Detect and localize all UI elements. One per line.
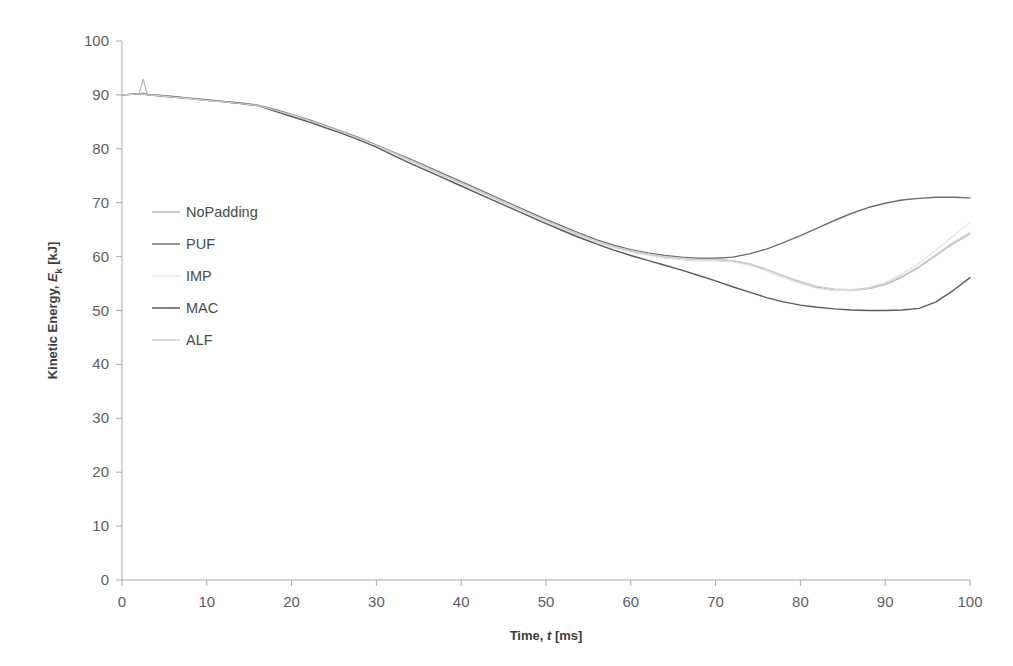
x-axis-title: Time, t [ms] — [510, 628, 583, 643]
series-line-alf — [122, 94, 970, 290]
x-tick-label: 40 — [453, 593, 470, 610]
legend-label-alf: ALF — [186, 332, 213, 348]
x-tick-label: 20 — [283, 593, 300, 610]
series-group — [122, 79, 970, 310]
x-tick-label: 100 — [957, 593, 982, 610]
y-tick-label: 0 — [101, 571, 109, 588]
y-tick-label: 80 — [92, 140, 109, 157]
legend-label-mac: MAC — [186, 300, 218, 316]
y-axis-title-text: Kinetic Energy, Ek [kJ] — [45, 242, 64, 380]
x-tick-label: 10 — [198, 593, 215, 610]
series-line-imp — [122, 94, 970, 291]
x-tick-label: 80 — [792, 593, 809, 610]
y-tick-label: 100 — [84, 32, 109, 49]
x-tick-label: 90 — [877, 593, 894, 610]
y-tick-label: 20 — [92, 463, 109, 480]
x-axis-tick-group: 0102030405060708090100 — [118, 580, 983, 610]
legend-label-imp: IMP — [186, 268, 212, 284]
y-tick-label: 30 — [92, 409, 109, 426]
chart-svg: 0102030405060708090100 01020304050607080… — [0, 0, 1013, 666]
y-tick-label: 70 — [92, 194, 109, 211]
x-tick-label: 50 — [538, 593, 555, 610]
y-tick-label: 40 — [92, 355, 109, 372]
x-tick-label: 70 — [707, 593, 724, 610]
y-tick-label: 50 — [92, 302, 109, 319]
series-line-mac — [122, 94, 970, 311]
series-line-nopadding — [122, 79, 970, 290]
chart-legend: NoPaddingPUFIMPMACALF — [152, 204, 258, 348]
y-tick-label: 10 — [92, 517, 109, 534]
kinetic-energy-chart: 0102030405060708090100 01020304050607080… — [0, 0, 1013, 666]
legend-label-puf: PUF — [186, 236, 215, 252]
legend-label-nopadding: NoPadding — [186, 204, 258, 220]
y-axis-title: Kinetic Energy, Ek [kJ] — [45, 242, 64, 380]
x-tick-label: 60 — [622, 593, 639, 610]
x-tick-label: 0 — [118, 593, 126, 610]
x-tick-label: 30 — [368, 593, 385, 610]
y-tick-label: 90 — [92, 86, 109, 103]
x-axis-title-text: Time, t [ms] — [510, 628, 583, 643]
y-axis-tick-group: 0102030405060708090100 — [84, 32, 122, 588]
y-tick-label: 60 — [92, 248, 109, 265]
series-line-puf — [122, 93, 970, 258]
